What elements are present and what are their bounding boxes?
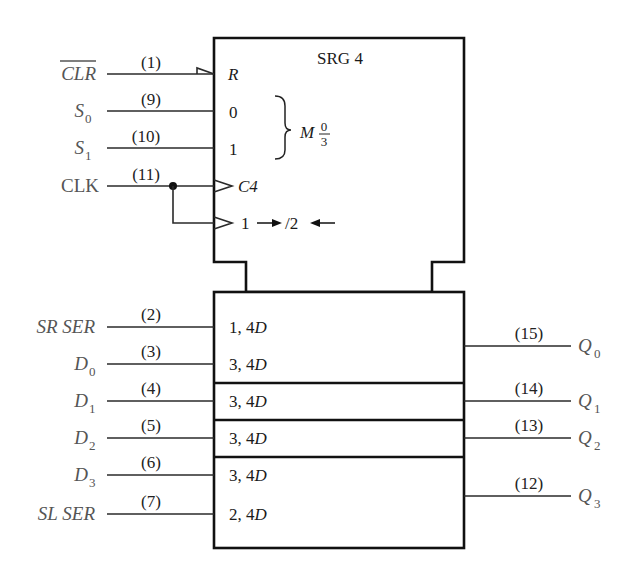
svg-text:1, 4D: 1, 4D	[229, 318, 268, 337]
pin-11: (11)	[132, 165, 160, 184]
svg-text:D: D	[73, 353, 88, 374]
mode-bit-1: 1	[229, 140, 238, 159]
shift-register-diagram: SRG 4 CLR (1) R S 0 (9) 0 S 1 (10) 1 M 0…	[0, 0, 633, 571]
svg-text:2, 4D: 2, 4D	[229, 505, 268, 524]
mode-label: M	[299, 123, 315, 142]
svg-text:Q: Q	[578, 485, 592, 506]
svg-text:D: D	[73, 464, 88, 485]
output-q2: (13) Q 2	[464, 416, 601, 453]
reset-label: R	[227, 65, 239, 84]
svg-text:1: 1	[594, 401, 601, 416]
pin-10: (10)	[132, 127, 160, 146]
pin-1: (1)	[141, 53, 161, 72]
svg-text:(14): (14)	[515, 379, 543, 398]
s0-label: S	[75, 100, 85, 121]
svg-text:3: 3	[594, 496, 601, 511]
clr-label: CLR	[61, 63, 96, 84]
shift-right-number: 1	[241, 214, 250, 233]
output-q0: (15) Q 0	[464, 324, 601, 361]
svg-text:Q: Q	[578, 427, 592, 448]
svg-text:(3): (3)	[141, 342, 161, 361]
mode-bit-0: 0	[229, 103, 238, 122]
svg-text:3, 4D: 3, 4D	[229, 466, 268, 485]
svg-text:3, 4D: 3, 4D	[229, 355, 268, 374]
svg-text:(5): (5)	[141, 416, 161, 435]
svg-text:SR SER: SR SER	[36, 316, 95, 337]
svg-text:(15): (15)	[515, 324, 543, 343]
s0-subscript: 0	[85, 111, 92, 126]
svg-text:(7): (7)	[141, 492, 161, 511]
output-q3: (12) Q 3	[464, 474, 601, 511]
svg-text:3, 4D: 3, 4D	[229, 392, 268, 411]
svg-text:3, 4D: 3, 4D	[229, 429, 268, 448]
svg-text:(2): (2)	[141, 305, 161, 324]
svg-text:(4): (4)	[141, 379, 161, 398]
s1-label: S	[75, 137, 85, 158]
block-title: SRG 4	[317, 49, 363, 68]
output-q1: (14) Q 1	[464, 379, 601, 416]
svg-text:D: D	[73, 427, 88, 448]
svg-text:3: 3	[89, 475, 96, 490]
svg-text:(13): (13)	[515, 416, 543, 435]
shift-left-number: /2	[285, 214, 298, 233]
svg-text:Q: Q	[578, 390, 592, 411]
pin-9: (9)	[141, 90, 161, 109]
svg-text:SL SER: SL SER	[38, 503, 96, 524]
mode-denominator: 3	[321, 134, 328, 149]
clk-branch-wire	[173, 186, 214, 223]
active-low-indicator-icon	[197, 68, 214, 74]
svg-text:2: 2	[594, 438, 601, 453]
clock-label: C4	[238, 177, 258, 196]
control-block	[214, 38, 464, 292]
svg-text:D: D	[73, 390, 88, 411]
mode-numerator: 0	[321, 119, 328, 134]
svg-text:1: 1	[89, 401, 96, 416]
svg-text:(12): (12)	[515, 474, 543, 493]
svg-text:0: 0	[594, 346, 601, 361]
svg-text:0: 0	[89, 364, 96, 379]
svg-text:Q: Q	[578, 335, 592, 356]
clk-label: CLK	[61, 175, 99, 196]
svg-text:2: 2	[89, 438, 96, 453]
s1-subscript: 1	[85, 148, 92, 163]
svg-text:(6): (6)	[141, 453, 161, 472]
